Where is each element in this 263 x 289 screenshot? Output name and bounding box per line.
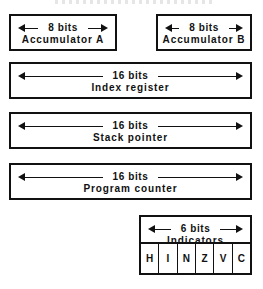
bits-label-indicators: 6 bits [177,224,215,234]
scan-artifact-top-text [55,0,215,4]
arrow-left-icon [18,173,109,182]
register-name-index-register: Index register [11,83,250,93]
arrow-right-icon [214,225,243,234]
arrow-right-icon [223,24,243,33]
indicator-flag-z: Z [196,244,214,273]
register-programming-model-diagram: 8 bits Accumulator A 8 bits Accumulator … [0,0,263,289]
register-name-accumulator-a: Accumulator A [11,35,115,45]
register-box-accumulator-a: 8 bits Accumulator A [9,14,117,51]
register-box-index-register: 16 bits Index register [9,62,252,99]
indicator-flag-n: N [178,244,196,273]
indicator-flag-i: I [159,244,177,273]
arrow-right-icon [82,24,108,33]
bits-label-accumulator-b: 8 bits [185,23,223,33]
bits-label-program-counter: 16 bits [109,172,153,182]
register-box-accumulator-b: 8 bits Accumulator B [156,14,252,51]
register-name-program-counter: Program counter [11,184,250,194]
bits-width-indicator-accumulator-b: 8 bits [165,21,243,35]
indicator-flag-v: V [214,244,232,273]
bits-label-stack-pointer: 16 bits [109,121,153,131]
indicator-flag-h: H [141,244,159,273]
arrow-left-icon [18,72,109,81]
register-box-stack-pointer: 16 bits Stack pointer [9,112,252,149]
bits-width-indicator-indicators: 6 bits [148,222,243,236]
bits-label-accumulator-a: 8 bits [44,23,82,33]
indicator-flag-c: C [233,244,250,273]
register-box-program-counter: 16 bits Program counter [9,163,252,200]
bits-width-indicator-accumulator-a: 8 bits [18,21,108,35]
arrow-left-icon [18,122,109,131]
register-box-indicators: 6 bits Indicators HINZVC [139,215,252,275]
bits-label-index-register: 16 bits [109,71,153,81]
arrow-right-icon [152,122,243,131]
register-name-stack-pointer: Stack pointer [11,133,250,143]
arrow-left-icon [18,24,44,33]
bits-width-indicator-index-register: 16 bits [18,69,243,83]
arrow-right-icon [152,173,243,182]
indicator-flag-cells: HINZVC [141,242,250,273]
arrow-left-icon [148,225,177,234]
bits-width-indicator-program-counter: 16 bits [18,170,243,184]
bits-width-indicator-stack-pointer: 16 bits [18,119,243,133]
register-name-accumulator-b: Accumulator B [158,35,250,45]
arrow-left-icon [165,24,185,33]
arrow-right-icon [152,72,243,81]
